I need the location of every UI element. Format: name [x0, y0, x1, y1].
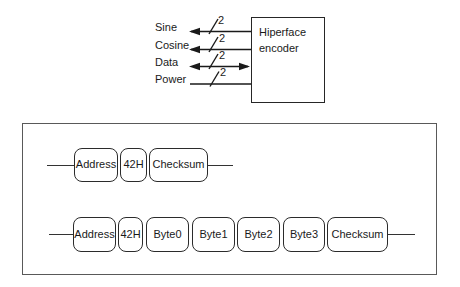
arrowhead-right-icon — [239, 63, 250, 71]
frame2-field-byte3: Byte3 — [283, 217, 325, 252]
arrowhead-left-icon — [189, 63, 200, 71]
arrowhead-left-icon — [189, 46, 200, 54]
frame1-field-checksum: Checksum — [149, 148, 208, 182]
arrowhead-left-icon — [189, 28, 200, 36]
hiperface-encoder-diagram: Sine Cosine Data Power 2 2 2 2 — [0, 0, 460, 287]
frame2-field-address: Address — [73, 217, 116, 252]
frame1-field-42h: 42H — [120, 148, 147, 182]
frame-trail-line — [388, 234, 415, 236]
frame2-field-byte2: Byte2 — [237, 217, 280, 252]
frame1-field-address: Address — [74, 148, 118, 182]
frame-panel — [22, 123, 437, 275]
frame-trail-line — [208, 165, 233, 167]
frame-lead-line — [49, 234, 73, 236]
frame2-field-byte1: Byte1 — [192, 217, 235, 252]
frame2-field-checksum: Checksum — [327, 217, 388, 252]
encoder-label: Hiperface encoder — [259, 24, 319, 56]
encoder-box: Hiperface encoder — [251, 17, 325, 103]
frame2-field-byte0: Byte0 — [146, 217, 189, 252]
frame2-field-42h: 42H — [118, 217, 143, 252]
frame-lead-line — [47, 165, 74, 167]
